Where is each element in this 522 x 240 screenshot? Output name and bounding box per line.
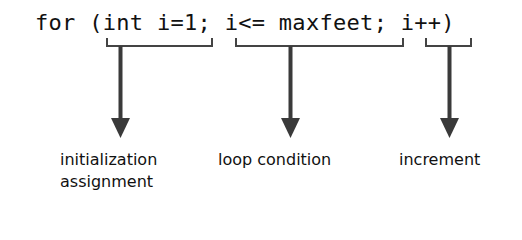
arrow-incr [440, 46, 459, 138]
bracket-incr [426, 38, 471, 46]
label-initialization: initialization assignment [60, 149, 157, 193]
bracket-cond [236, 38, 403, 46]
label-init-line2: assignment [60, 171, 157, 193]
bracket-init [107, 38, 212, 46]
arrow-init [111, 46, 130, 138]
label-init-line1: initialization [60, 149, 157, 171]
label-increment: increment [399, 149, 480, 171]
arrow-cond [281, 46, 300, 138]
label-loop-condition: loop condition [218, 149, 331, 171]
